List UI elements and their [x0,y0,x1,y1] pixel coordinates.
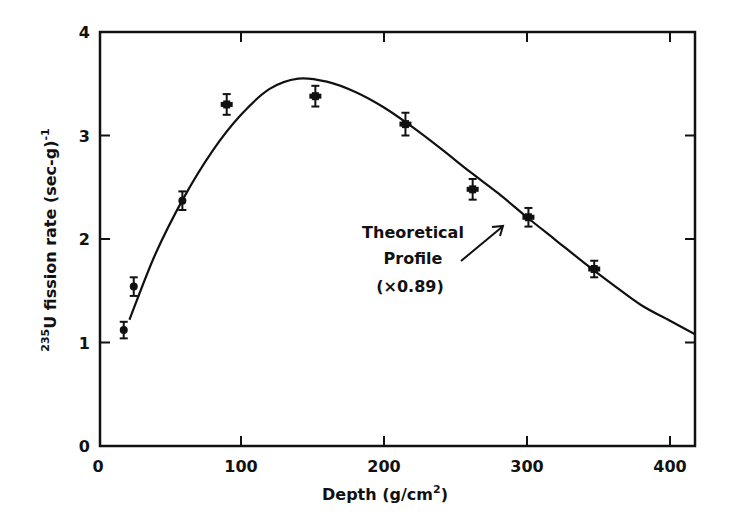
x-tick-label: 400 [653,457,686,476]
x-tick-label: 0 [92,457,103,476]
x-tick-label: 100 [224,457,257,476]
annotation-line-1: Theoretical [362,223,464,242]
y-tick-label: 1 [79,334,90,353]
data-point [522,208,534,227]
data-point [309,86,321,107]
x-tick-label: 300 [510,457,543,476]
theoretical-curve [129,78,698,336]
data-points [120,86,600,339]
data-point [130,277,138,296]
fission-rate-chart: 010020030040001234 235U fission rate (se… [0,0,733,532]
y-tick-label: 2 [79,230,90,249]
data-point [399,113,411,136]
theoretical-profile-annotation: Theoretical Profile (×0.89) [362,223,503,296]
data-point [467,179,479,200]
x-tick-label: 200 [367,457,400,476]
x-axis-label: Depth (g/cm2) [322,483,448,504]
y-tick-label: 3 [79,127,90,146]
annotation-line-2: Profile [384,249,443,268]
annotation-arrow-icon [461,226,503,261]
data-point [120,322,128,339]
y-tick-label: 0 [79,437,90,456]
y-axis-label: 235U fission rate (sec-g)-1 [39,128,60,351]
data-point [221,94,233,115]
annotation-line-3: (×0.89) [376,277,444,296]
y-tick-label: 4 [79,23,90,42]
